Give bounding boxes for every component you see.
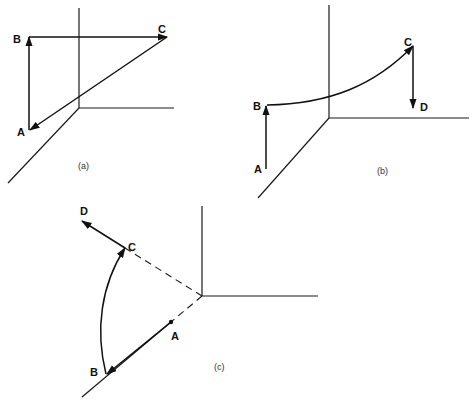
vector-a-ca [30, 37, 167, 130]
caption-b: (b) [377, 166, 388, 176]
vector-c-ab [107, 322, 171, 374]
point-label-a: A [171, 330, 179, 342]
point-label-c: C [158, 23, 166, 35]
axes-b [258, 5, 469, 198]
point-label-d: D [420, 101, 428, 113]
panel-b: B C D A (b) [253, 5, 469, 198]
vector-diagram: B C A (a) B C D A (b) D C [0, 0, 473, 400]
point-label-b: B [13, 33, 21, 45]
point-label-b: B [90, 366, 98, 378]
point-label-a: A [17, 126, 25, 138]
point-label-b: B [253, 100, 261, 112]
point-label-a: A [254, 163, 262, 175]
caption-a: (a) [78, 161, 89, 171]
axes-a [8, 8, 174, 183]
vector-c-bc [101, 248, 125, 374]
axes-c [82, 206, 318, 397]
point-label-c: C [404, 36, 412, 48]
point-label-c: C [128, 241, 136, 253]
vector-c-cd [82, 221, 125, 248]
vector-b-bc [267, 46, 413, 105]
caption-c: (c) [214, 362, 225, 372]
panel-c: D C A B (c) [80, 205, 318, 397]
point-label-d: D [80, 205, 88, 217]
panel-a: B C A (a) [8, 8, 174, 183]
